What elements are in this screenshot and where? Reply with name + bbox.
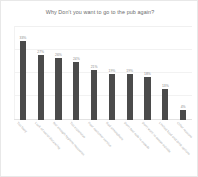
bar-rect	[91, 70, 97, 120]
bar-item: 21%	[91, 26, 97, 120]
bar-item: 13%	[162, 26, 168, 120]
bar-rect	[180, 110, 186, 120]
bar-item: 26%	[55, 26, 61, 120]
x-axis-label: Too expensive	[69, 121, 86, 139]
bar-value-label: 21%	[91, 65, 98, 69]
bar-rect	[127, 74, 133, 120]
bar-series: 33%27%26%24%21%19%19%18%13%4%	[14, 26, 192, 120]
x-axis-label: Don't want to queue outside	[141, 121, 172, 154]
bar-item: 27%	[38, 26, 44, 120]
bar-item: 4%	[180, 26, 186, 120]
bar-value-label: 27%	[37, 50, 44, 54]
bar-rect	[73, 62, 79, 120]
bar-item: 19%	[127, 26, 133, 120]
bar-value-label: 24%	[73, 57, 80, 61]
bar-value-label: 4%	[181, 105, 186, 109]
bar-rect	[162, 89, 168, 120]
bar-value-label: 33%	[20, 36, 27, 40]
plot-area: 33%27%26%24%21%19%19%18%13%4%	[14, 26, 192, 120]
x-axis-label: Bad atmosphere	[105, 121, 124, 141]
bar-item: 18%	[144, 26, 150, 120]
bar-rect	[144, 77, 150, 120]
bar-item: 33%	[20, 26, 26, 120]
bar-value-label: 19%	[109, 69, 116, 73]
bar-value-label: 26%	[55, 53, 62, 57]
bar-value-label: 13%	[162, 84, 169, 88]
x-axis-label: Limited food and drink options	[158, 121, 191, 156]
bar-rect	[20, 41, 26, 120]
bar-rect	[109, 74, 115, 120]
bar-item: 19%	[109, 26, 115, 120]
bar-item: 24%	[73, 26, 79, 120]
bar-value-label: 19%	[126, 69, 133, 73]
bar-rect	[55, 58, 61, 120]
x-axis-label: Other reasons	[176, 121, 193, 139]
chart-figure: Why Don't you want to go to the pub agai…	[0, 0, 198, 177]
x-axis-label: Not enough hygiene measures	[52, 121, 85, 156]
bar-rect	[38, 55, 44, 120]
x-axis-label: Too busy	[16, 121, 28, 133]
bar-value-label: 18%	[144, 72, 151, 76]
chart-title: Why Don't you want to go to the pub agai…	[1, 8, 198, 16]
x-axis-labels: Too busyLack of social distancingNot eno…	[14, 121, 192, 176]
